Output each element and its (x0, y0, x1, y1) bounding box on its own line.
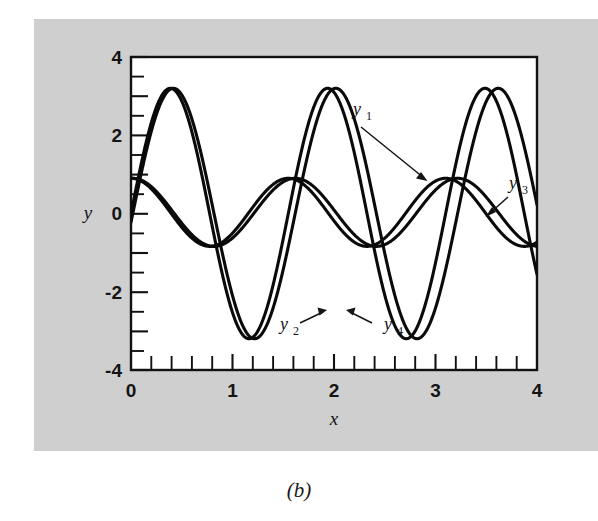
annotation-y4-subscript: 4 (397, 324, 403, 338)
y-tick-label-neg2: -2 (105, 282, 122, 303)
y-tick-label-4: 4 (111, 47, 122, 68)
figure-root: 4 2 0 -2 -4 0 1 2 3 4 y x y 1 y 3 y 2 (0, 0, 598, 521)
x-tick-label-2: 2 (329, 380, 340, 401)
annotation-y2-subscript: 2 (293, 324, 299, 338)
annotation-y1-label: y (351, 99, 361, 119)
plot-frame (131, 57, 537, 370)
y-tick-label-2: 2 (111, 125, 122, 146)
annotation-y3-label: y (507, 173, 517, 193)
y-tick-label-0: 0 (111, 203, 122, 224)
x-tick-label-0: 0 (126, 380, 137, 401)
annotation-y1-subscript: 1 (366, 109, 372, 123)
y-tick-label-neg4: -4 (105, 360, 122, 381)
annotation-y2-label: y (278, 314, 288, 334)
y-axis-label: y (82, 202, 93, 223)
x-tick-label-1: 1 (227, 380, 238, 401)
x-axis-label: x (329, 408, 339, 429)
chart-svg: 4 2 0 -2 -4 0 1 2 3 4 y x y 1 y 3 y 2 (0, 0, 598, 521)
annotation-y3-subscript: 3 (522, 183, 528, 197)
x-tick-label-4: 4 (532, 380, 543, 401)
x-tick-label-3: 3 (430, 380, 441, 401)
annotation-y4-label: y (382, 314, 392, 334)
figure-caption: (b) (0, 478, 598, 503)
